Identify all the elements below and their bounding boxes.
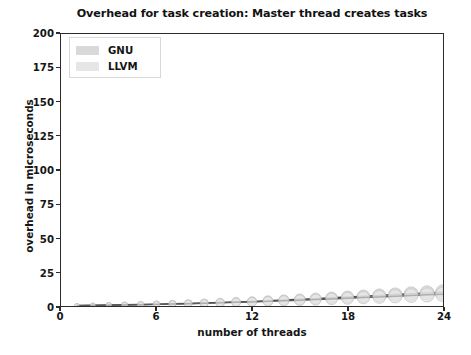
series-marker-llvm	[404, 289, 418, 303]
legend-swatch-gnu	[76, 46, 99, 55]
x-tick-mark	[443, 307, 444, 311]
series-marker-llvm	[200, 299, 208, 306]
legend-item-gnu: GNU	[76, 43, 133, 58]
chart-figure: Overhead for task creation: Master threa…	[0, 0, 471, 355]
series-marker-llvm	[75, 304, 79, 306]
y-tick-label: 150	[8, 96, 54, 107]
series-marker-llvm	[169, 301, 176, 306]
series-marker-llvm	[247, 297, 256, 306]
y-axis-label: overhead in microseconds	[23, 96, 35, 256]
series-marker-llvm	[232, 298, 241, 306]
legend-label-llvm: LLVM	[108, 61, 138, 72]
series-marker-llvm	[106, 303, 111, 306]
chart-title: Overhead for task creation: Master threa…	[60, 7, 444, 20]
legend-label-gnu: GNU	[108, 45, 133, 56]
y-tick-label: 25	[8, 267, 54, 278]
series-marker-llvm	[185, 300, 193, 306]
x-tick-label: 18	[341, 311, 355, 322]
x-tick-label: 24	[437, 311, 451, 322]
chart-legend: GNU LLVM	[69, 37, 161, 78]
legend-swatch-llvm	[76, 62, 99, 71]
series-line-gnu	[77, 292, 443, 305]
series-marker-llvm	[341, 292, 353, 304]
x-tick-label: 0	[56, 311, 63, 322]
series-marker-llvm	[389, 290, 402, 303]
series-marker-llvm	[137, 302, 143, 306]
series-marker-llvm	[263, 296, 273, 306]
series-marker-llvm	[373, 290, 386, 303]
y-tick-label: 0	[8, 302, 54, 313]
series-marker-llvm	[357, 291, 369, 303]
y-tick-label: 50	[8, 233, 54, 244]
series-marker-llvm	[310, 294, 321, 305]
plot-area: GNU LLVM	[60, 33, 444, 307]
series-marker-llvm	[279, 296, 289, 306]
series-marker-llvm	[153, 301, 160, 306]
y-tick-label: 100	[8, 165, 54, 176]
y-tick-label: 200	[8, 28, 54, 39]
x-tick-mark	[347, 307, 348, 311]
series-marker-llvm	[294, 295, 305, 306]
series-marker-llvm	[122, 302, 128, 306]
series-marker-llvm	[90, 303, 95, 306]
legend-item-llvm: LLVM	[76, 59, 138, 74]
y-tick-label: 175	[8, 62, 54, 73]
series-marker-llvm	[326, 293, 338, 305]
y-tick-label: 75	[8, 199, 54, 210]
series-marker-llvm	[216, 299, 224, 306]
x-tick-mark	[251, 307, 252, 311]
x-tick-mark	[155, 307, 156, 311]
x-axis-label: number of threads	[60, 326, 444, 338]
x-tick-label: 12	[245, 311, 259, 322]
x-tick-label: 6	[152, 311, 159, 322]
y-tick-label: 125	[8, 130, 54, 141]
series-marker-llvm	[420, 288, 434, 302]
x-tick-mark	[59, 307, 60, 311]
